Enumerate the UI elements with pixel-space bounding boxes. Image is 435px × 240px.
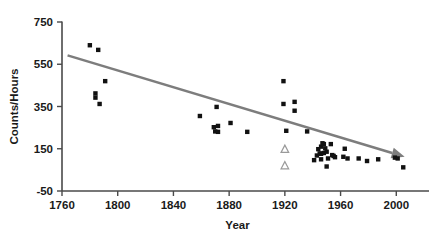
x-tick-label: 1840 bbox=[161, 199, 187, 211]
data-point-square bbox=[324, 150, 328, 154]
data-point-square bbox=[376, 157, 380, 161]
scatter-chart: -501503505507501760180018401880192019602… bbox=[0, 0, 435, 240]
chart-canvas: -501503505507501760180018401880192019602… bbox=[0, 0, 435, 240]
y-tick-label: 550 bbox=[34, 58, 53, 70]
axes bbox=[62, 22, 429, 192]
data-point-square bbox=[216, 124, 220, 128]
data-point-square bbox=[305, 129, 309, 133]
data-point-square bbox=[341, 155, 345, 159]
data-point-square bbox=[93, 91, 97, 95]
x-axis-ticks: 1760180018401880192019602000 bbox=[49, 191, 409, 211]
data-point-square bbox=[96, 48, 100, 52]
data-point-square bbox=[228, 121, 232, 125]
x-tick-label: 1880 bbox=[216, 199, 242, 211]
data-point-square bbox=[324, 164, 328, 168]
data-point-square bbox=[212, 125, 216, 129]
y-tick-label: -50 bbox=[36, 185, 53, 197]
data-point-square bbox=[343, 147, 347, 151]
data-point-square bbox=[103, 79, 107, 83]
data-point-square bbox=[292, 109, 296, 113]
trend-line-group bbox=[68, 55, 405, 158]
x-tick-label: 2000 bbox=[383, 199, 409, 211]
data-point-triangle bbox=[281, 145, 289, 152]
data-point-square bbox=[333, 155, 337, 159]
x-tick-label: 1920 bbox=[272, 199, 298, 211]
data-point-square bbox=[345, 156, 349, 160]
x-tick-label: 1800 bbox=[105, 199, 131, 211]
x-axis-title: Year bbox=[225, 219, 250, 231]
series-open-markers bbox=[281, 145, 289, 169]
data-point-square bbox=[97, 102, 101, 106]
data-point-square bbox=[319, 157, 323, 161]
data-point-square bbox=[401, 165, 405, 169]
data-point-square bbox=[315, 153, 319, 157]
data-point-square bbox=[312, 158, 316, 162]
y-tick-label: 750 bbox=[34, 16, 53, 28]
y-tick-label: 150 bbox=[34, 143, 53, 155]
data-point-square bbox=[356, 156, 360, 160]
data-point-square bbox=[88, 43, 92, 47]
data-point-square bbox=[284, 129, 288, 133]
x-tick-label: 1960 bbox=[328, 199, 354, 211]
data-point-square bbox=[322, 142, 326, 146]
data-point-triangle bbox=[281, 162, 289, 169]
data-point-square bbox=[292, 100, 296, 104]
x-tick-label: 1760 bbox=[49, 199, 75, 211]
data-point-square bbox=[329, 142, 333, 146]
data-point-square bbox=[281, 102, 285, 106]
data-point-square bbox=[281, 79, 285, 83]
y-axis-ticks: -50150350550750 bbox=[34, 16, 62, 197]
data-point-square bbox=[365, 159, 369, 163]
data-point-square bbox=[198, 114, 202, 118]
trend-line bbox=[68, 55, 393, 153]
y-tick-label: 350 bbox=[34, 101, 53, 113]
series-observations bbox=[88, 43, 406, 170]
data-point-square bbox=[93, 95, 97, 99]
data-point-square bbox=[245, 130, 249, 134]
data-point-square bbox=[395, 156, 399, 160]
y-axis-title: Counts/Hours bbox=[8, 68, 20, 144]
data-point-square bbox=[216, 130, 220, 134]
data-point-square bbox=[326, 156, 330, 160]
data-point-square bbox=[214, 105, 218, 109]
